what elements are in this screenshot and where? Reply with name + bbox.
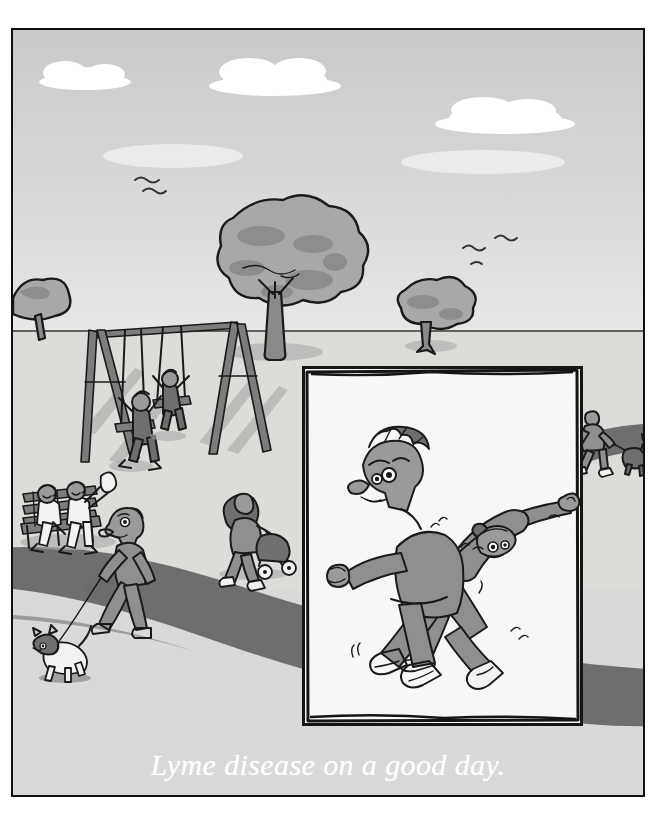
cartoon-image: Lyme disease on a good day. Skidmore (0, 0, 658, 829)
panel-contents (305, 369, 580, 723)
inset-panel (302, 366, 583, 726)
cartoon-frame: Lyme disease on a good day. Skidmore (11, 28, 645, 797)
figure-upright-man (327, 427, 463, 688)
dog-right (623, 433, 644, 476)
